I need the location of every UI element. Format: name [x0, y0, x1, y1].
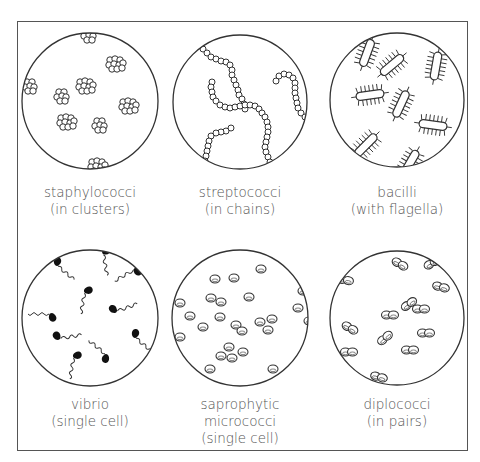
label-line: (in clusters)	[15, 201, 165, 218]
label-line: saprophytic	[165, 396, 315, 413]
label-staphylococci: staphylococci (in clusters)	[15, 184, 165, 218]
diplococci-field	[330, 251, 464, 385]
label-streptococci: streptococci (in chains)	[165, 184, 315, 218]
label-line: micrococci	[165, 413, 315, 430]
micrococci-field	[172, 250, 314, 386]
label-line: (in pairs)	[322, 413, 472, 430]
label-bacilli: bacilli (with flagella)	[322, 184, 472, 218]
streptococci-field	[173, 35, 308, 169]
vibrio-field	[22, 246, 158, 386]
label-line: vibrio	[15, 396, 165, 413]
label-line: diplococci	[322, 396, 472, 413]
bacilli-field	[330, 32, 464, 185]
label-line: staphylococci	[15, 184, 165, 201]
label-line: (with flagella)	[322, 201, 472, 218]
label-saprophytic-micrococci: saprophytic micrococci (single cell)	[165, 396, 315, 447]
label-line: bacilli	[322, 184, 472, 201]
label-line: (in chains)	[165, 201, 315, 218]
label-line: streptococci	[165, 184, 315, 201]
label-line: (single cell)	[165, 430, 315, 447]
bacteria-diagram	[0, 0, 480, 462]
label-diplococci: diplococci (in pairs)	[322, 396, 472, 430]
staphylococci-field	[22, 28, 158, 174]
label-line: (single cell)	[15, 413, 165, 430]
label-vibrio: vibrio (single cell)	[15, 396, 165, 430]
